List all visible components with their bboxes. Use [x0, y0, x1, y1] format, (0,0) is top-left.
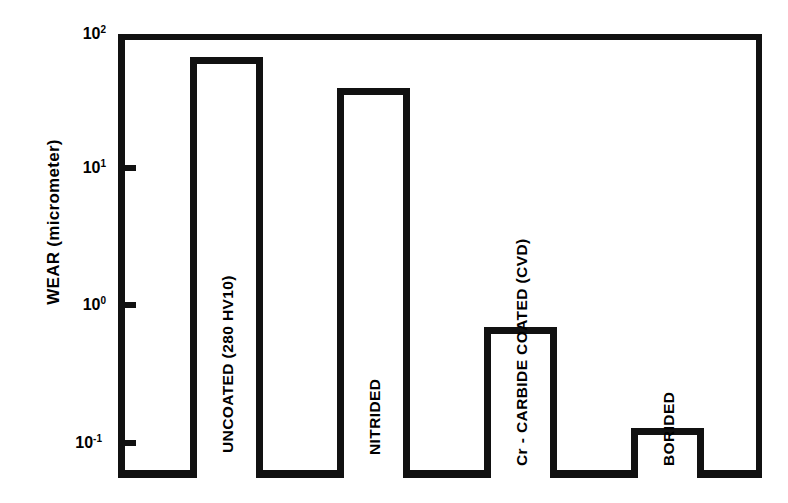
y-tick-mantissa-1: 10: [83, 296, 101, 313]
y-tick-exponent-100: 2: [100, 24, 106, 35]
y-tick-label-1: 100: [42, 297, 106, 313]
y-tick-label-100: 102: [42, 26, 106, 42]
y-tick-mark-1: [118, 302, 136, 308]
y-tick-label-10: 101: [42, 160, 106, 176]
y-tick-mantissa-100: 10: [83, 25, 101, 42]
y-tick-mantissa-10: 10: [83, 159, 101, 176]
y-tick-exponent-0-1: -1: [93, 433, 102, 444]
y-tick-exponent-10: 1: [100, 158, 106, 169]
y-tick-mark-0-1: [118, 440, 136, 446]
bar-label-nitrided: NITRIDED: [366, 378, 384, 454]
y-axis-title: WEAR (micrometer): [44, 72, 64, 372]
y-tick-exponent-1: 0: [100, 295, 106, 306]
wear-bar-chart: WEAR (micrometer) 102 101 100 10-1 UNCOA…: [0, 0, 788, 503]
bar-label-borided: BORIDED: [660, 392, 678, 466]
bar-label-cr-carbide-coated-cvd: Cr - CARBIDE COATED (CVD): [513, 238, 531, 466]
y-tick-label-0-1: 10-1: [38, 435, 102, 451]
bar-label-uncoated: UNCOATED (280 HV10): [219, 275, 237, 453]
y-tick-mark-10: [118, 165, 136, 171]
y-tick-mantissa-0-1: 10: [75, 434, 93, 451]
